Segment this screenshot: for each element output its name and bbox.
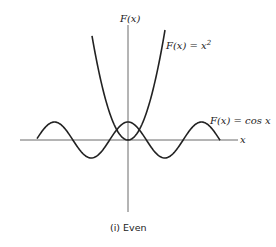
figure-caption: (i) Even [110,222,147,233]
y-axis-label: F(x) [119,13,140,24]
cosine-label: F(x) = cos x [209,115,271,126]
parabola-label: F(x) = x2 [165,39,212,51]
even-functions-diagram: F(x) x F(x) = x2 F(x) = cos x (i) Even [0,0,276,247]
parabola-curve [92,30,165,140]
x-axis-label: x [240,134,246,145]
